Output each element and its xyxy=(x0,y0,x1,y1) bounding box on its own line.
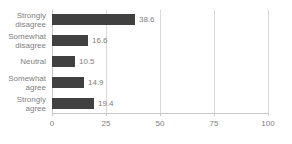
chart-title xyxy=(0,0,292,4)
category-label-somewhat-disagree: Somewhat disagree xyxy=(0,32,46,50)
bar-value-somewhat-disagree: 16.6 xyxy=(92,35,108,46)
bar-somewhat-agree[interactable] xyxy=(52,77,84,88)
category-label-strongly-agree: Strongly agree xyxy=(0,95,46,113)
tick-mark-0 xyxy=(52,113,53,116)
category-label-somewhat-agree: Somewhat agree xyxy=(0,74,46,92)
bar-value-neutral: 10.5 xyxy=(79,56,95,67)
category-label-strongly-disagree: Strongly disagree xyxy=(0,11,46,29)
x-tick-label-0: 0 xyxy=(37,119,67,129)
gridline-50 xyxy=(160,10,161,113)
bar-chart: 38.6 16.6 10.5 14.9 19.4 0 25 50 75 100 … xyxy=(0,0,292,144)
tick-mark-50 xyxy=(160,113,161,116)
tick-mark-25 xyxy=(106,113,107,116)
bar-value-somewhat-agree: 14.9 xyxy=(88,77,104,88)
bar-somewhat-disagree[interactable] xyxy=(52,35,88,46)
bar-value-strongly-disagree: 38.6 xyxy=(139,14,155,25)
gridline-75 xyxy=(214,10,215,113)
gridline-100 xyxy=(268,10,269,113)
bar-neutral[interactable] xyxy=(52,56,75,67)
category-label-neutral: Neutral xyxy=(0,57,46,66)
tick-mark-75 xyxy=(214,113,215,116)
plot-area: 38.6 16.6 10.5 14.9 19.4 xyxy=(52,10,268,113)
x-tick-label-50: 50 xyxy=(145,119,175,129)
x-tick-label-100: 100 xyxy=(253,119,283,129)
tick-mark-100 xyxy=(268,113,269,116)
x-tick-label-75: 75 xyxy=(199,119,229,129)
bar-strongly-disagree[interactable] xyxy=(52,14,135,25)
x-tick-label-25: 25 xyxy=(91,119,121,129)
bar-value-strongly-agree: 19.4 xyxy=(98,98,114,109)
bar-strongly-agree[interactable] xyxy=(52,98,94,109)
